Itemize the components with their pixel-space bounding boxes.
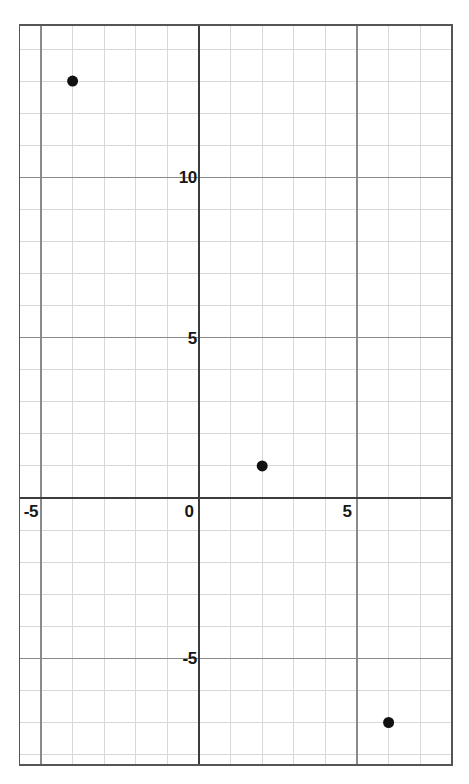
y-tick-label: 10 xyxy=(179,169,197,186)
coordinate-plane-chart: -505105-5 xyxy=(0,0,469,784)
data-point-marker xyxy=(383,717,394,728)
data-point-marker xyxy=(67,76,78,87)
y-tick-label: -5 xyxy=(182,650,197,667)
x-tick-label: 5 xyxy=(342,503,351,520)
grid-canvas xyxy=(0,0,469,784)
x-tick-label: 0 xyxy=(184,503,193,520)
x-tick-label: -5 xyxy=(24,503,39,520)
y-tick-label: 5 xyxy=(188,329,197,346)
plot-background xyxy=(0,0,469,784)
data-point-marker xyxy=(257,460,268,471)
